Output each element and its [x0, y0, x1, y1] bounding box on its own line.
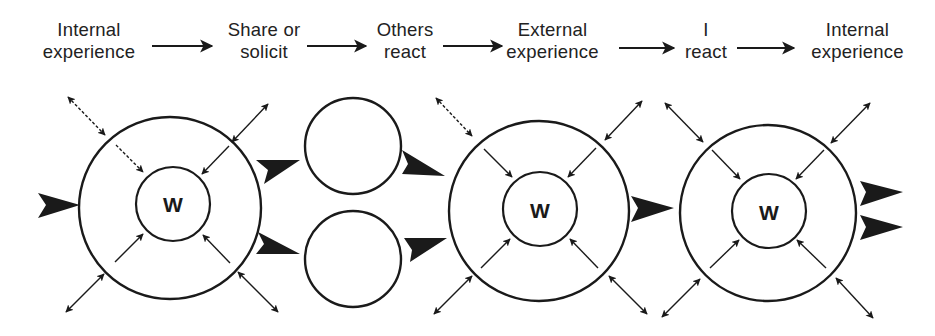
inward-arrow-icon [484, 149, 512, 177]
double-arrow-icon [66, 274, 104, 312]
output-arrowhead-icon [860, 215, 903, 240]
react-arrowhead-icon [402, 150, 445, 176]
diagram-canvas: W W [0, 0, 935, 336]
self-node-3: W [662, 103, 873, 318]
inward-arrow-icon [797, 240, 826, 268]
reaction-arrowhead-icon [631, 196, 674, 222]
double-arrow-icon [232, 104, 268, 142]
input-arrowhead-icon [38, 193, 80, 218]
double-arrow-icon [68, 97, 105, 135]
double-arrow-icon [831, 103, 870, 143]
inward-arrow-icon [481, 239, 510, 268]
double-arrow-icon [436, 98, 472, 136]
w-label: W [530, 199, 550, 222]
inward-arrow-icon [570, 239, 598, 268]
w-label: W [163, 193, 183, 216]
w-label: W [759, 201, 779, 224]
inward-arrow-icon [712, 150, 740, 179]
double-arrow-icon [665, 103, 703, 142]
double-arrow-icon [662, 279, 700, 317]
double-arrow-icon [836, 278, 873, 318]
inward-arrow-icon [202, 146, 229, 174]
self-node-1: W [38, 97, 278, 312]
output-arrowhead-icon [860, 181, 903, 206]
double-arrow-icon [434, 276, 472, 314]
other-circle-bottom [305, 211, 401, 307]
double-arrow-icon [605, 101, 642, 140]
inward-arrow-icon [116, 145, 143, 172]
share-arrowhead-icon [256, 160, 300, 184]
inward-arrow-icon [115, 234, 143, 262]
inward-arrow-icon [796, 150, 824, 179]
inward-arrow-icon [203, 235, 230, 263]
others-nodes [305, 98, 401, 307]
double-arrow-icon [238, 272, 278, 312]
flow-arrows [152, 46, 794, 48]
inward-arrow-icon [710, 240, 739, 268]
share-arrowhead-icon [256, 232, 300, 254]
inward-arrow-icon [568, 148, 596, 177]
self-node-2: W [434, 98, 647, 314]
double-arrow-icon [609, 276, 647, 314]
react-arrowhead-icon [404, 238, 447, 262]
other-circle-top [305, 98, 401, 194]
